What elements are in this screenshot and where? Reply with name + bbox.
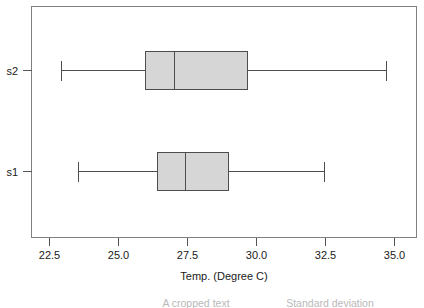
box-group-s1 (79, 153, 325, 191)
box-group-s2 (62, 52, 387, 90)
iqr-box-s1 (158, 153, 229, 191)
y-tick-label-s2: s2 (6, 65, 18, 77)
x-tick-label-5: 35.0 (384, 249, 405, 261)
x-tick-label-4: 32.5 (315, 249, 336, 261)
x-axis-title: Temp. (Degree C) (180, 270, 267, 282)
y-tick-label-s1: s1 (6, 166, 18, 178)
x-tick-label-3: 30.0 (246, 249, 267, 261)
iqr-box-s2 (146, 52, 248, 90)
x-tick-label-2: 27.5 (177, 249, 198, 261)
x-tick-label-0: 22.5 (39, 249, 60, 261)
footnote-left: A cropped text (162, 297, 229, 308)
footnote-right: Standard deviation (286, 297, 374, 308)
plot-frame (32, 7, 417, 238)
boxplot-chart: s2 s1 22.5 25.0 27.5 30.0 32.5 35.0 Temp… (0, 0, 424, 308)
boxplot-svg: s2 s1 22.5 25.0 27.5 30.0 32.5 35.0 Temp… (0, 0, 424, 308)
x-tick-label-1: 25.0 (108, 249, 129, 261)
